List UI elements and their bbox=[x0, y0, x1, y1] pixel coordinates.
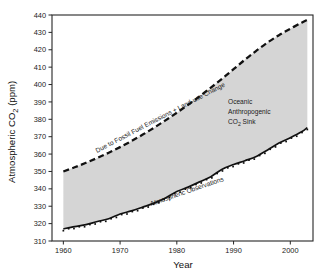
x-tick-label-2000: 2000 bbox=[282, 246, 298, 255]
y-tick-label-330: 330 bbox=[34, 202, 46, 211]
observation-point bbox=[110, 218, 112, 220]
observation-point bbox=[280, 142, 282, 144]
observation-point bbox=[222, 170, 224, 172]
observation-point bbox=[306, 129, 308, 131]
observation-point bbox=[126, 213, 128, 215]
y-tick-label-390: 390 bbox=[34, 98, 46, 107]
observation-point bbox=[131, 211, 133, 213]
observation-point bbox=[89, 224, 91, 226]
y-tick-label-420: 420 bbox=[34, 45, 46, 54]
x-tick-label-1990: 1990 bbox=[225, 246, 241, 255]
y-tick-label-370: 370 bbox=[34, 132, 46, 141]
observation-point bbox=[259, 155, 261, 157]
observation-point bbox=[301, 132, 303, 134]
observation-point bbox=[100, 221, 102, 223]
y-tick-label-360: 360 bbox=[34, 150, 46, 159]
observation-point bbox=[291, 137, 293, 139]
observation-point bbox=[296, 135, 298, 137]
y-tick-label-320: 320 bbox=[34, 219, 46, 228]
co2-chart-figure: 3103203303403503603703803904004104204304… bbox=[0, 0, 329, 279]
svg-text:Atmospheric CO2 (ppm): Atmospheric CO2 (ppm) bbox=[6, 81, 20, 183]
y-tick-label-440: 440 bbox=[34, 11, 46, 20]
observation-point bbox=[121, 214, 123, 216]
oceanic-sink-label-line2: Anthropogenic bbox=[228, 108, 271, 116]
y-axis-title: Atmospheric CO2 (ppm) bbox=[6, 81, 20, 183]
observation-point bbox=[269, 148, 271, 150]
observation-point bbox=[216, 173, 218, 175]
y-tick-label-430: 430 bbox=[34, 28, 46, 37]
observation-point bbox=[137, 210, 139, 212]
observation-point bbox=[275, 146, 277, 148]
observation-point bbox=[248, 159, 250, 161]
observation-point bbox=[227, 167, 229, 169]
oceanic-sink-label-line1: Oceanic bbox=[228, 98, 253, 105]
observation-point bbox=[84, 226, 86, 228]
observation-point bbox=[285, 141, 287, 143]
y-tick-label-410: 410 bbox=[34, 63, 46, 72]
observation-point bbox=[116, 217, 118, 219]
observation-point bbox=[142, 207, 144, 209]
observation-point bbox=[94, 223, 96, 225]
x-tick-label-1960: 1960 bbox=[55, 246, 71, 255]
y-axis-title-main: Atmospheric CO bbox=[6, 113, 17, 183]
observation-point bbox=[238, 163, 240, 165]
observation-point bbox=[243, 162, 245, 164]
x-axis-title: Year bbox=[173, 259, 193, 270]
y-tick-label-400: 400 bbox=[34, 80, 46, 89]
oceanic-sink-label-co: CO bbox=[228, 118, 238, 125]
oceanic-sink-label-sink: Sink bbox=[241, 118, 256, 125]
y-axis-ticks: 3103203303403503603703803904004104204304… bbox=[34, 11, 52, 246]
observation-point bbox=[253, 158, 255, 160]
observation-point bbox=[73, 228, 75, 230]
observation-point bbox=[78, 226, 80, 228]
observation-point bbox=[63, 230, 65, 232]
x-tick-label-1970: 1970 bbox=[112, 246, 128, 255]
observation-point bbox=[105, 220, 107, 222]
y-axis-title-tail: (ppm) bbox=[6, 81, 17, 109]
observation-point bbox=[147, 206, 149, 208]
y-tick-label-340: 340 bbox=[34, 184, 46, 193]
y-tick-label-310: 310 bbox=[34, 237, 46, 246]
x-axis-ticks: 19601970198019902000 bbox=[55, 241, 298, 255]
y-tick-label-380: 380 bbox=[34, 115, 46, 124]
observation-point bbox=[68, 228, 70, 230]
y-tick-label-350: 350 bbox=[34, 167, 46, 176]
x-tick-label-1980: 1980 bbox=[169, 246, 185, 255]
observation-point bbox=[264, 152, 266, 154]
chart-canvas: 3103203303403503603703803904004104204304… bbox=[0, 0, 329, 279]
observation-point bbox=[232, 166, 234, 168]
